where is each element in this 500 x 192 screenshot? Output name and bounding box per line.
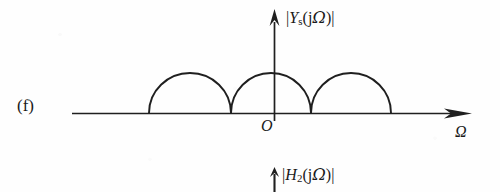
subfigure-label: (f) [17, 97, 34, 114]
spectrum-plot [0, 0, 500, 192]
y-axis [270, 9, 280, 121]
lobe-baseband [231, 73, 311, 113]
next-figure-label-arg-open: (j [302, 166, 312, 183]
lobe-left-replica [149, 73, 231, 113]
y-axis-label-arg-open: (j [303, 9, 313, 26]
lobe-right-replica [311, 73, 391, 113]
figure-canvas: (f) O Ω |Ys(jΩ)| |H2(jΩ)| [0, 0, 500, 192]
next-figure-axis [270, 167, 279, 192]
next-figure-label-arg-omega: Ω [312, 165, 325, 184]
next-figure-label-close-bar: | [331, 166, 334, 183]
y-axis-label-close-bar: | [331, 9, 334, 26]
x-axis-label: Ω [455, 124, 467, 140]
origin-label: O [261, 118, 273, 134]
next-figure-label-symbol: H [285, 166, 297, 183]
spectral-lobes [149, 73, 391, 113]
y-axis-label: |Ys(jΩ)| [286, 10, 335, 27]
next-figure-axis-label: |H2(jΩ)| [282, 167, 335, 184]
y-axis-label-symbol: Y [289, 9, 298, 26]
y-axis-label-arg-omega: Ω [313, 8, 326, 27]
